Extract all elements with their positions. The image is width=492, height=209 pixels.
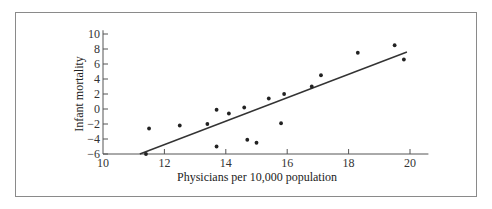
y-tick-label: −2 (87, 117, 100, 131)
y-tick-label: 4 (94, 72, 100, 86)
data-point (402, 58, 406, 62)
x-tick-label: 10 (97, 156, 109, 170)
data-point (255, 141, 259, 145)
data-point (227, 112, 231, 116)
data-point (310, 85, 314, 89)
data-point (178, 124, 182, 128)
data-point (215, 108, 219, 112)
data-point (282, 92, 286, 96)
y-tick-label: 8 (94, 42, 100, 56)
y-axis-label: Infant mortality (72, 56, 86, 132)
data-point (267, 97, 271, 101)
y-tick-label: 0 (94, 102, 100, 116)
x-tick-label: 16 (281, 156, 293, 170)
data-point (147, 127, 151, 131)
y-tick-label: 10 (88, 27, 100, 41)
y-tick-label: −4 (87, 132, 100, 146)
x-axis-label: Physicians per 10,000 population (177, 170, 337, 184)
scatter-chart: −6−4−20246810101214161820 Physicians per… (0, 0, 492, 209)
data-point (356, 51, 360, 55)
x-tick-label: 12 (158, 156, 170, 170)
data-point (144, 152, 148, 156)
data-points (144, 43, 406, 156)
regression-line (140, 52, 407, 154)
axes: −6−4−20246810101214161820 (87, 27, 428, 170)
data-point (245, 138, 249, 142)
x-tick-label: 18 (343, 156, 355, 170)
data-point (215, 145, 219, 149)
fit-line (140, 52, 407, 154)
data-point (393, 43, 397, 47)
x-tick-label: 14 (220, 156, 232, 170)
data-point (242, 106, 246, 110)
data-point (205, 122, 209, 126)
y-tick-label: 6 (94, 57, 100, 71)
x-tick-label: 20 (404, 156, 416, 170)
data-point (279, 121, 283, 125)
data-point (319, 73, 323, 77)
y-tick-label: 2 (94, 87, 100, 101)
